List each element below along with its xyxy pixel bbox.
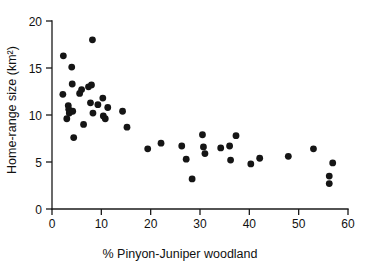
- scatter-plot-figure: 010203040506005101520 % Pinyon-Juniper w…: [0, 0, 365, 269]
- x-axis-title: % Pinyon-Juniper woodland: [103, 247, 258, 261]
- data-point: [94, 101, 101, 108]
- y-tick-label: 10: [29, 109, 43, 123]
- data-point: [70, 134, 77, 141]
- plot-canvas: 010203040506005101520 % Pinyon-Juniper w…: [0, 0, 365, 269]
- data-point: [69, 81, 76, 88]
- data-point: [233, 132, 240, 139]
- data-point: [285, 153, 292, 160]
- data-point: [124, 124, 131, 131]
- data-point: [247, 160, 254, 167]
- data-point: [80, 121, 87, 128]
- data-point: [59, 91, 66, 98]
- data-point: [87, 99, 94, 106]
- x-tick-label: 50: [292, 217, 306, 231]
- data-point: [200, 144, 207, 151]
- x-tick-label: 20: [144, 217, 158, 231]
- data-point: [89, 36, 96, 43]
- data-point: [189, 176, 196, 183]
- data-point: [78, 86, 85, 93]
- data-point: [88, 82, 95, 89]
- data-point: [183, 156, 190, 163]
- data-point: [217, 145, 224, 152]
- data-point: [69, 108, 76, 115]
- data-point: [144, 145, 151, 152]
- data-point: [329, 160, 336, 167]
- x-tick-label: 40: [243, 217, 257, 231]
- data-point: [199, 131, 206, 138]
- data-point: [202, 150, 209, 157]
- data-point: [326, 173, 333, 180]
- x-tick-label: 10: [95, 217, 109, 231]
- data-point: [326, 180, 333, 187]
- x-tick-label: 30: [193, 217, 207, 231]
- x-tick-label: 60: [341, 217, 355, 231]
- data-point: [227, 157, 234, 164]
- x-tick-label: 0: [49, 217, 56, 231]
- y-tick-label: 5: [35, 156, 42, 170]
- data-point: [178, 143, 185, 150]
- y-tick-label: 15: [29, 62, 43, 76]
- data-point: [68, 64, 75, 71]
- data-point: [256, 155, 263, 162]
- tick-labels-group: 010203040506005101520: [29, 15, 355, 232]
- data-point: [158, 140, 165, 147]
- data-points-group: [59, 36, 336, 187]
- data-point: [60, 52, 67, 59]
- tick-marks-group: [46, 21, 348, 215]
- data-point: [310, 145, 317, 152]
- data-point: [90, 110, 97, 117]
- data-point: [99, 95, 106, 102]
- data-point: [119, 108, 126, 115]
- data-point: [226, 143, 233, 150]
- y-tick-label: 20: [29, 15, 43, 29]
- y-tick-label: 0: [35, 203, 42, 217]
- y-axis-title: Home-range size (km²): [5, 46, 19, 174]
- axes-group: [52, 21, 348, 209]
- data-point: [102, 115, 109, 122]
- data-point: [104, 104, 111, 111]
